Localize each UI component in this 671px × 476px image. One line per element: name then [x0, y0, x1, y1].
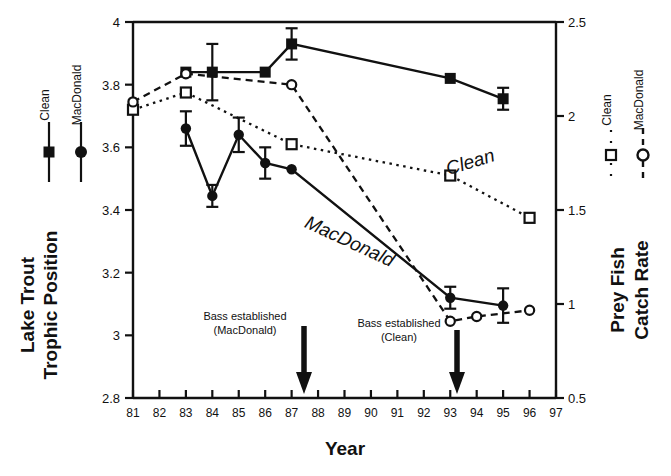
marker-open-square [287, 139, 297, 149]
y-left-tick-label: 3.4 [102, 203, 120, 218]
x-tick-label: 95 [496, 406, 510, 420]
y-left-tick-label: 3.8 [102, 78, 120, 93]
marker-open-circle [128, 97, 137, 106]
y-axis-left-title-line2: Trophic Position [40, 231, 61, 380]
x-tick-label: 86 [259, 406, 273, 420]
x-tick-label: 91 [391, 406, 405, 420]
y-right-tick-label: 2.5 [568, 15, 586, 30]
marker-open-square [525, 213, 535, 223]
x-tick-label: 96 [523, 406, 537, 420]
x-tick-label: 94 [470, 406, 484, 420]
y-left-tick-label: 2.8 [102, 391, 120, 406]
x-tick-label: 81 [126, 406, 140, 420]
marker-filled-circle [498, 300, 508, 310]
marker-filled-square [498, 93, 509, 104]
marker-filled-square [286, 38, 297, 49]
marker-open-square [181, 88, 191, 98]
ann-clean-line1: Bass established [357, 317, 440, 329]
y-right-tick-label: 2 [568, 109, 575, 124]
x-tick-label: 89 [338, 406, 352, 420]
figure-root: 2.833.23.43.63.84 0.511.522.5 8182838485… [0, 0, 671, 476]
y-left-tick-label: 3 [113, 328, 120, 343]
x-tick-label: 83 [179, 406, 193, 420]
y-axis-right-title-line1: Prey Fish [607, 247, 628, 333]
marker-open-circle [525, 306, 534, 315]
marker-open-circle [287, 80, 296, 89]
x-tick-label: 92 [417, 406, 431, 420]
x-axis-title: Year [325, 438, 366, 459]
x-tick-label: 88 [311, 406, 325, 420]
marker-filled-square [445, 73, 456, 84]
x-tick-label: 82 [153, 406, 167, 420]
marker-filled-circle [286, 164, 296, 174]
y-axis-left-title-line1: Lake Trout [17, 256, 38, 353]
y-axis-right-title-line2: Catch Rate [631, 240, 652, 339]
y-right-tick-label: 1.5 [568, 203, 586, 218]
marker-open-circle [181, 69, 190, 78]
marker-open-circle [472, 312, 481, 321]
y-right-tick-label: 0.5 [568, 391, 586, 406]
legend-right-item-macdonald-label: MacDonald [632, 70, 646, 131]
x-tick-label: 84 [206, 406, 220, 420]
y-right-tick-label: 1 [568, 297, 575, 312]
chart-canvas: 2.833.23.43.63.84 0.511.522.5 8182838485… [0, 0, 671, 476]
marker-open-circle [446, 317, 455, 326]
marker-filled-square [260, 67, 271, 78]
ann-macdonald-line2: (MacDonald) [214, 324, 277, 336]
x-tick-label: 90 [364, 406, 378, 420]
marker-filled-circle [207, 191, 217, 201]
x-tick-label: 87 [285, 406, 299, 420]
ann-clean-line2: (Clean) [381, 331, 417, 343]
x-tick-label: 97 [549, 406, 563, 420]
x-tick-label: 85 [232, 406, 246, 420]
y-left-tick-label: 3.6 [102, 140, 120, 155]
x-tick-label: 93 [444, 406, 458, 420]
y-left-tick-label: 3.2 [102, 266, 120, 281]
ann-macdonald-line1: Bass established [203, 310, 286, 322]
marker-filled-circle [260, 158, 270, 168]
legend-left-item-clean-label: Clean [38, 89, 52, 120]
y-left-tick-label: 4 [113, 15, 120, 30]
marker-filled-circle [234, 130, 244, 140]
marker-filled-circle [181, 123, 191, 133]
legend-left-item-macdonald-label: MacDonald [70, 65, 84, 126]
legend-right-item-clean-label: Clean [600, 94, 614, 125]
marker-filled-circle [445, 293, 455, 303]
